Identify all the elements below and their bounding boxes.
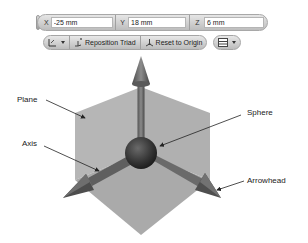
triad-action-toolbar: Reposition Triad Reset to Origin	[43, 34, 241, 50]
triad-options-dropdown[interactable]	[44, 36, 70, 49]
chevron-down-icon	[61, 41, 65, 44]
y-axis-icon: Y	[119, 18, 126, 28]
reset-to-origin-label: Reset to Origin	[156, 39, 203, 46]
x-coordinate-group: X	[38, 15, 116, 30]
y-coordinate-group: Y	[116, 15, 190, 30]
arrowhead-callout-line	[217, 181, 244, 190]
view-options-dropdown[interactable]	[213, 35, 241, 50]
view-options-segment	[214, 36, 240, 49]
reposition-triad-label: Reposition Triad	[85, 39, 136, 46]
axis-label: Axis	[22, 139, 37, 148]
arrowhead-label: Arrowhead	[247, 176, 286, 185]
reposition-triad-icon	[74, 38, 83, 47]
y-coordinate-input[interactable]	[128, 17, 186, 28]
arrowhead-z	[132, 56, 150, 84]
triad-actions-pill: Reposition Triad Reset to Origin	[43, 35, 207, 50]
z-coordinate-group: Z	[190, 15, 267, 30]
sphere-label: Sphere	[247, 108, 273, 117]
table-view-icon	[218, 38, 228, 47]
reset-origin-icon	[145, 38, 154, 47]
reposition-triad-button[interactable]: Reposition Triad	[70, 36, 141, 49]
chevron-down-icon	[232, 41, 236, 44]
reset-to-origin-button[interactable]: Reset to Origin	[141, 36, 207, 49]
plane-callout-line	[46, 100, 85, 118]
triad-mode-icon	[48, 38, 57, 47]
x-axis-icon: X	[44, 18, 49, 28]
coordinate-toolbar: X Y Z	[37, 14, 268, 31]
plane-label: Plane	[17, 95, 37, 104]
x-coordinate-input[interactable]	[51, 17, 113, 28]
z-axis-icon: Z	[193, 18, 202, 28]
sphere	[125, 137, 157, 169]
z-coordinate-input[interactable]	[204, 17, 264, 28]
